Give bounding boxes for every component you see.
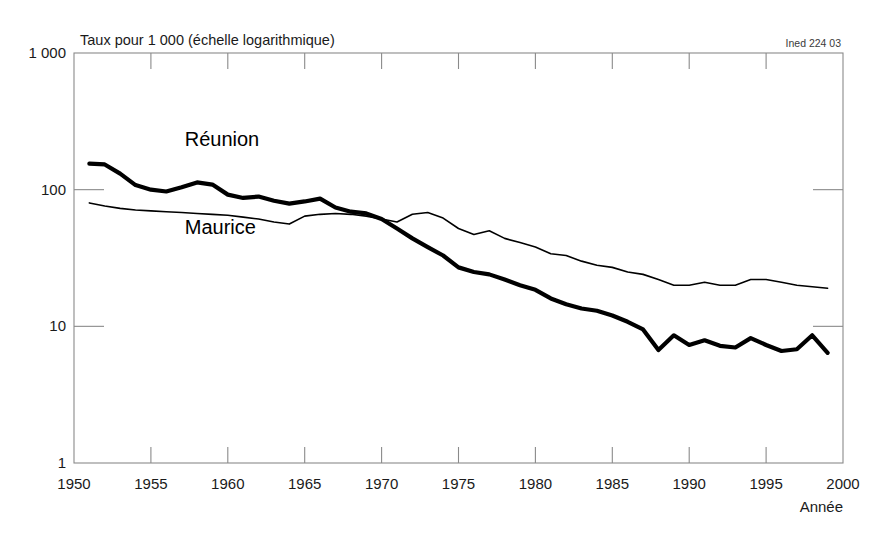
- line-chart: 1 000100101 1950195519601965197019751980…: [0, 0, 896, 539]
- x-axis-title: Année: [800, 498, 843, 515]
- x-tick-label-1970: 1970: [365, 475, 398, 492]
- x-tick-label-1950: 1950: [57, 475, 90, 492]
- chart-title: Taux pour 1 000 (échelle logarithmique): [80, 32, 335, 48]
- x-tick-label-1965: 1965: [288, 475, 321, 492]
- x-tick-label-1985: 1985: [596, 475, 629, 492]
- x-tick-label-2000: 2000: [826, 475, 859, 492]
- series-label-runion: Réunion: [185, 128, 260, 150]
- x-tick-label-1975: 1975: [442, 475, 475, 492]
- series-lines: [89, 164, 827, 353]
- series-label-maurice: Maurice: [185, 216, 256, 238]
- x-tick-label-1955: 1955: [134, 475, 167, 492]
- x-axis-tick-labels: 1950195519601965197019751980198519901995…: [57, 475, 859, 492]
- x-tick-label-1960: 1960: [211, 475, 244, 492]
- y-tick-label-100: 100: [41, 181, 66, 198]
- y-axis-tick-labels: 1 000100101: [28, 44, 66, 471]
- chart-figure: 1 000100101 1950195519601965197019751980…: [0, 0, 896, 539]
- y-tick-label-10: 10: [49, 317, 66, 334]
- x-tick-label-1990: 1990: [673, 475, 706, 492]
- source-tag: Ined 224 03: [786, 37, 842, 49]
- x-tick-label-1995: 1995: [749, 475, 782, 492]
- x-tick-label-1980: 1980: [519, 475, 552, 492]
- y-tick-label-1000: 1 000: [28, 44, 66, 61]
- y-tick-label-1: 1: [58, 454, 66, 471]
- axis-ticks: [74, 53, 843, 463]
- series-line-runion: [89, 164, 827, 353]
- plot-frame: [74, 53, 843, 463]
